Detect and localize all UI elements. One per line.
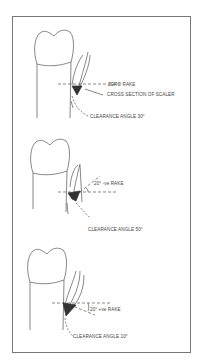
tooth-3 [28,248,67,330]
panel-3-rake-label: 20° +ve RAKE [90,307,121,312]
panel-1-section-label: CROSS SECTION OF SCALER [107,92,175,97]
panel-2-rake-label: 20° -ve RAKE [94,181,124,186]
diagram-drawing [0,0,199,360]
tooth-2 [31,139,70,212]
panel-1-rake-label: ZERO RAKE [108,82,135,87]
panel-1-clearance-label: CLEARANCE ANGLE 30° [90,114,145,119]
tooth-1 [35,30,74,118]
panel-2-clearance-label: CLEARANCE ANGLE 50° [88,227,143,232]
panel-3-clearance-label: CLEARANCE ANGLE 10° [73,334,128,339]
